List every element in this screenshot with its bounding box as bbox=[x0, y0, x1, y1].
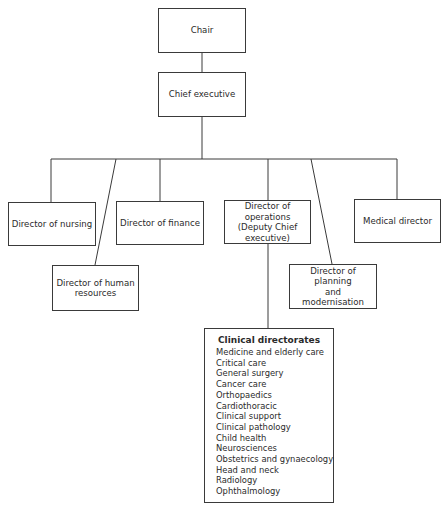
node-director-nursing-label: Director of nursing bbox=[12, 219, 92, 230]
list-item: Radiology bbox=[216, 475, 333, 486]
clinical-directorates-title: Clinical directorates bbox=[205, 335, 333, 346]
list-item: Cardiothoracic bbox=[216, 401, 333, 412]
node-director-planning: Director of planning and modernisation bbox=[289, 264, 377, 309]
node-director-operations-label-2: (Deputy Chief bbox=[238, 222, 298, 233]
list-item: Neurosciences bbox=[216, 443, 333, 454]
list-item: Medicine and elderly care bbox=[216, 347, 333, 358]
list-item: Clinical pathology bbox=[216, 422, 333, 433]
node-director-finance: Director of finance bbox=[116, 201, 204, 245]
node-director-planning-label-3: modernisation bbox=[302, 297, 364, 308]
node-director-hr-label-2: resources bbox=[75, 288, 117, 299]
list-item: Obstetrics and gynaecology bbox=[216, 454, 333, 465]
list-item: Cancer care bbox=[216, 379, 333, 390]
node-chair: Chair bbox=[158, 8, 246, 53]
node-medical-director: Medical director bbox=[354, 199, 441, 243]
node-director-nursing: Director of nursing bbox=[8, 202, 96, 246]
list-item: Clinical support bbox=[216, 411, 333, 422]
node-director-operations-label-3: executive) bbox=[245, 233, 290, 244]
node-director-operations: Director of operations (Deputy Chief exe… bbox=[224, 200, 311, 244]
list-item: General surgery bbox=[216, 368, 333, 379]
list-item: Child health bbox=[216, 433, 333, 444]
node-chair-label: Chair bbox=[191, 25, 214, 36]
node-director-planning-label-1: Director of planning bbox=[292, 266, 374, 287]
node-director-planning-label-2: and bbox=[325, 287, 341, 298]
node-chief-executive: Chief executive bbox=[158, 72, 246, 117]
list-item: Ophthalmology bbox=[216, 486, 333, 497]
list-item: Head and neck bbox=[216, 465, 333, 476]
clinical-directorates-list: Medicine and elderly care Critical care … bbox=[216, 347, 333, 497]
node-director-hr-label-1: Director of human bbox=[56, 278, 134, 289]
node-chief-executive-label: Chief executive bbox=[169, 89, 235, 100]
node-director-finance-label: Director of finance bbox=[120, 218, 200, 229]
node-medical-director-label: Medical director bbox=[363, 216, 432, 227]
node-director-operations-label-1: Director of operations bbox=[227, 201, 308, 222]
node-clinical-directorates: Clinical directorates Medicine and elder… bbox=[204, 328, 334, 503]
list-item: Orthopaedics bbox=[216, 390, 333, 401]
list-item: Critical care bbox=[216, 358, 333, 369]
node-director-hr: Director of human resources bbox=[52, 265, 139, 311]
